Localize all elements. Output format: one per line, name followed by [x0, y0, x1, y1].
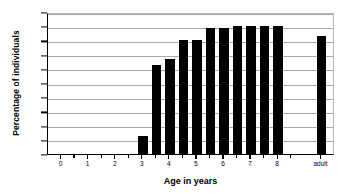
bar	[233, 26, 243, 154]
y-tick-mark	[41, 140, 47, 141]
y-tick-mark	[41, 27, 47, 28]
x-tick-label: 2	[113, 160, 117, 167]
x-tick-mark-minor	[290, 155, 291, 158]
bar	[273, 26, 283, 154]
bar	[206, 28, 216, 154]
gridline	[48, 113, 333, 114]
gridline	[48, 127, 333, 128]
gridline	[48, 42, 333, 43]
gridline	[48, 28, 333, 29]
x-tick-label: 3	[140, 160, 144, 167]
y-tick-mark	[41, 41, 47, 42]
y-tick-mark	[41, 55, 47, 56]
x-tick-label: adult	[313, 160, 327, 167]
x-tick-mark-minor	[101, 155, 102, 158]
x-tick-mark	[141, 155, 142, 159]
bar	[260, 26, 270, 154]
gridline	[48, 14, 333, 15]
bar	[192, 40, 202, 154]
y-tick-mark	[41, 126, 47, 127]
gridline	[48, 99, 333, 100]
x-tick-mark	[249, 155, 250, 159]
bar	[317, 36, 327, 154]
x-tick-mark	[320, 155, 321, 159]
x-tick-label: 0	[59, 160, 63, 167]
x-tick-mark	[87, 155, 88, 159]
x-tick-mark-minor	[209, 155, 210, 158]
bar	[138, 136, 148, 154]
bar	[165, 59, 175, 154]
x-tick-label: 5	[194, 160, 198, 167]
x-tick-label: 6	[221, 160, 225, 167]
bar	[246, 26, 256, 154]
x-tick-mark	[168, 155, 169, 159]
x-axis-title: Age in years	[47, 176, 334, 186]
gridline	[48, 141, 333, 142]
y-tick-mark	[41, 154, 47, 155]
x-tick-mark-minor	[263, 155, 264, 158]
x-tick-mark-minor	[73, 155, 74, 158]
bar	[179, 40, 189, 154]
bar	[152, 65, 162, 154]
x-tick-mark-minor	[128, 155, 129, 158]
y-tick-mark	[41, 98, 47, 99]
x-tick-label: 8	[275, 160, 279, 167]
x-tick-mark	[114, 155, 115, 159]
x-tick-mark-minor	[155, 155, 156, 158]
y-tick-mark	[41, 112, 47, 113]
y-tick-mark	[41, 83, 47, 84]
x-tick-label: 7	[248, 160, 252, 167]
x-tick-label: 4	[167, 160, 171, 167]
y-axis-title: Percentage of individuals	[11, 13, 21, 153]
x-tick-mark-minor	[236, 155, 237, 158]
x-tick-mark	[222, 155, 223, 159]
gridline	[48, 56, 333, 57]
y-tick-mark	[41, 69, 47, 70]
x-tick-label: 1	[86, 160, 90, 167]
bar	[219, 28, 229, 154]
x-tick-mark	[60, 155, 61, 159]
gridline	[48, 70, 333, 71]
x-tick-mark-minor	[182, 155, 183, 158]
x-tick-mark	[277, 155, 278, 159]
bar-chart: Percentage of individuals 01020304050607…	[0, 0, 348, 195]
x-tick-mark	[195, 155, 196, 159]
gridline	[48, 85, 333, 86]
plot-area	[47, 13, 334, 155]
y-tick-mark	[41, 12, 47, 13]
